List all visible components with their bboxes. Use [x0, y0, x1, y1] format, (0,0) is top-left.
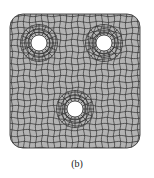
- bottom-center-hole: [67, 101, 83, 117]
- mesh-figure: [0, 0, 154, 178]
- top-right-hole: [96, 35, 112, 51]
- top-left-hole: [31, 35, 47, 51]
- figure-caption: (b): [0, 158, 154, 169]
